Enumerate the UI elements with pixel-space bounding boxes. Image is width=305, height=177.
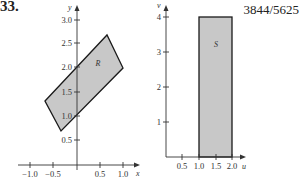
x-tick-label: −0.5 <box>45 169 60 177</box>
v-tick-label: 3 <box>157 47 161 57</box>
figures: −1.0 −0.5 0.5 1.0 x 0.5 1.0 1.5 2.0 2.5 … <box>0 0 305 177</box>
x-tick-label: 0.5 <box>95 169 106 177</box>
u-axis-label: u <box>242 162 246 171</box>
x-axis-label: x <box>135 169 140 177</box>
y-axis-label: y <box>67 3 72 12</box>
region-r <box>45 35 123 131</box>
region-s-label: S <box>214 40 218 49</box>
left-plot: −1.0 −0.5 0.5 1.0 x 0.5 1.0 1.5 2.0 2.5 … <box>18 3 140 177</box>
y-tick-label: 1.0 <box>61 111 72 121</box>
v-axis-label: v <box>157 1 161 10</box>
y-tick-label: 0.5 <box>61 135 72 145</box>
y-axis-arrow-icon <box>75 5 80 11</box>
u-tick-label: 0.5 <box>177 161 188 171</box>
y-tick-label: 1.5 <box>61 87 72 97</box>
u-axis-arrow-icon <box>240 155 246 160</box>
region-r-label: R <box>95 59 101 68</box>
v-tick-label: 1 <box>157 117 161 127</box>
u-tick-label: 2.0 <box>227 161 238 171</box>
v-tick-label: 4 <box>157 12 162 22</box>
x-tick-label: −1.0 <box>22 169 37 177</box>
y-tick-label: 2.5 <box>61 38 72 48</box>
right-plot: 0.5 1.0 1.5 2.0 u 1 2 3 4 v S <box>157 1 246 171</box>
u-tick-label: 1.5 <box>211 161 222 171</box>
x-axis-arrow-icon <box>134 163 140 168</box>
region-s <box>199 17 232 157</box>
u-tick-label: 1.0 <box>194 161 205 171</box>
y-tick-label: 3.0 <box>61 15 72 25</box>
y-tick-label: 2.0 <box>61 62 72 72</box>
x-tick-label: 1.0 <box>118 169 129 177</box>
v-tick-label: 2 <box>157 82 161 92</box>
v-axis-arrow-icon <box>164 5 169 11</box>
